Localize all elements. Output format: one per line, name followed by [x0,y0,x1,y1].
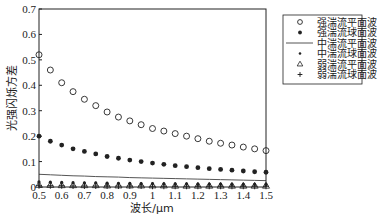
x-tick-label: 1.5 [259,189,273,201]
x-tick-label: 1.2 [191,189,205,201]
legend-label: 弱湍流平面波 [317,58,377,70]
axes-frame [39,9,266,187]
x-tick-label: 0.8 [100,189,114,201]
series-1 [37,134,269,175]
axes [39,9,266,187]
x-tick-label: 0.9 [123,189,137,201]
x-tick-label: 0.7 [78,189,92,201]
x-tick-label: 0.6 [55,189,69,201]
y-tick-label: 0.7 [22,3,36,15]
series-0 [36,52,269,154]
series-2 [39,174,266,180]
x-tick-label: 1.1 [168,189,182,201]
legend: 强湍流平面波强湍流球面波中湍流平面波中湍流球面波弱湍流平面波弱湍流球面波 [283,15,377,84]
x-tick-label: 1 [150,189,156,201]
x-tick-label: 1.4 [236,189,250,201]
y-tick-label: 0.1 [22,156,36,168]
legend-label: 强湍流球面波 [317,26,377,38]
y-tick-label: 0.3 [22,105,36,117]
y-tick-label: 0 [31,181,37,193]
y-axis-title: 光强闪烁方差 [5,65,19,131]
legend-label: 中湍流球面波 [317,47,377,59]
y-tick-label: 0.4 [22,79,36,91]
y-tick-label: 0.2 [22,130,36,142]
x-axis-title: 波长/μm [130,202,173,215]
x-tick-label: 1.3 [214,189,228,201]
legend-label: 弱湍流球面波 [317,68,377,80]
legend-label: 强湍流平面波 [317,16,377,28]
y-tick-label: 0.6 [22,28,36,40]
y-tick-label: 0.5 [22,54,36,66]
legend-label: 中湍流平面波 [317,37,377,49]
plot-area [36,52,270,189]
chart: 0.50.60.70.80.911.11.21.31.41.5 00.10.20… [0,0,377,222]
